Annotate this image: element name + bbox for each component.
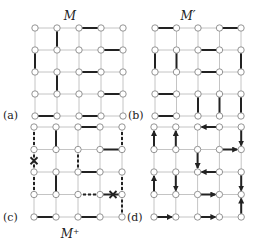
vertex-node (173, 113, 179, 119)
vertex-node (76, 113, 82, 119)
vertex-node (216, 191, 222, 197)
vertex-node (97, 191, 103, 197)
vertex-node (32, 69, 38, 75)
panel-c-label: (c) (3, 211, 18, 224)
vertex-node (152, 91, 158, 97)
vertex-node (216, 113, 222, 119)
vertex-node (76, 91, 82, 97)
vertex-node (151, 169, 157, 175)
vertex-node (76, 69, 82, 75)
vertex-node (216, 214, 222, 220)
vertex-node (98, 47, 104, 53)
vertex-node (31, 124, 37, 130)
vertex-node (98, 113, 104, 119)
vertex-node (98, 69, 104, 75)
vertex-node (98, 25, 104, 31)
vertex-node (238, 214, 244, 220)
vertex-node (151, 214, 157, 220)
vertex-node (216, 124, 222, 130)
vertex-node (119, 146, 125, 152)
vertex-node (97, 214, 103, 220)
vertex-node (194, 191, 200, 197)
vertex-node (32, 113, 38, 119)
vertex-node (195, 47, 201, 53)
vertex-node (120, 25, 126, 31)
vertex-node (238, 124, 244, 130)
vertex-node (195, 25, 201, 31)
vertex-node (75, 169, 81, 175)
vertex-node (53, 214, 59, 220)
vertex-node (98, 91, 104, 97)
vertex-node (195, 69, 201, 75)
vertex-node (76, 25, 82, 31)
vertex-node (238, 113, 244, 119)
vertex-node (75, 146, 81, 152)
vertex-node (151, 146, 157, 152)
vertex-node (151, 191, 157, 197)
vertex-node (216, 146, 222, 152)
panel-b-grid (152, 25, 244, 119)
vertex-node (173, 191, 179, 197)
vertex-node (54, 47, 60, 53)
vertex-node (54, 91, 60, 97)
panel-a-label: (a) (3, 109, 18, 122)
vertex-node (194, 124, 200, 130)
vertex-node (32, 25, 38, 31)
vertex-node (119, 214, 125, 220)
panel-b-label: (b) (128, 109, 144, 122)
vertex-node (31, 214, 37, 220)
vertex-node (53, 124, 59, 130)
vertex-node (238, 69, 244, 75)
vertex-node (173, 91, 179, 97)
panel-d-label: (d) (127, 211, 143, 224)
vertex-node (31, 146, 37, 152)
vertex-node (75, 214, 81, 220)
vertex-node (120, 69, 126, 75)
vertex-node (31, 169, 37, 175)
vertex-node (194, 214, 200, 220)
vertex-node (54, 69, 60, 75)
panel-b-title: M′ (179, 9, 195, 23)
vertex-node (238, 91, 244, 97)
vertex-node (173, 25, 179, 31)
vertex-node (151, 124, 157, 130)
vertex-node (97, 146, 103, 152)
vertex-node (75, 191, 81, 197)
panel-a-title: M (63, 9, 77, 23)
vertex-node (173, 214, 179, 220)
vertex-node (53, 146, 59, 152)
vertex-node (238, 146, 244, 152)
vertex-node (152, 25, 158, 31)
vertex-node (32, 91, 38, 97)
vertex-node (152, 69, 158, 75)
vertex-node (152, 47, 158, 53)
vertex-node (152, 113, 158, 119)
vertex-node (53, 191, 59, 197)
vertex-node (32, 47, 38, 53)
vertex-node (216, 169, 222, 175)
vertex-node (54, 113, 60, 119)
panel-c-grid (31, 124, 126, 220)
vertex-node (120, 113, 126, 119)
vertex-node (173, 69, 179, 75)
vertex-node (31, 191, 37, 197)
vertex-node (97, 124, 103, 130)
vertex-node (173, 169, 179, 175)
vertex-node (195, 113, 201, 119)
vertex-node (216, 91, 222, 97)
vertex-node (120, 91, 126, 97)
vertex-node (238, 169, 244, 175)
panel-a-grid (32, 25, 126, 119)
panel-d-grid (151, 124, 245, 220)
vertex-node (238, 191, 244, 197)
vertex-node (119, 191, 125, 197)
vertex-node (216, 47, 222, 53)
vertex-node (53, 169, 59, 175)
grid-diagram-figure: M M′ M⁺ (a) (b) (c) (d) (0, 0, 257, 243)
vertex-node (195, 91, 201, 97)
vertex-node (120, 47, 126, 53)
vertex-node (238, 25, 244, 31)
vertex-node (97, 169, 103, 175)
vertex-node (216, 25, 222, 31)
vertex-node (173, 124, 179, 130)
